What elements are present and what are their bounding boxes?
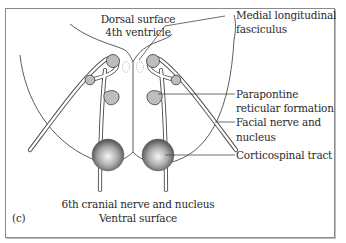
mlf-label-line1: Medial longitudinal — [236, 8, 336, 22]
panel-label: (c) — [12, 211, 25, 225]
dorsal-surface-label: Dorsal surface — [98, 12, 178, 26]
ventral-surface-label: Ventral surface — [58, 211, 218, 225]
facial-nerve-label-line1: Facial nerve and — [236, 115, 321, 129]
fourth-ventricle-label: 4th ventricle — [98, 25, 178, 39]
sixth-nerve-label: 6th cranial nerve and nucleus — [58, 197, 218, 211]
mlf-label-line2: fasciculus — [236, 22, 287, 36]
facial-nerve-label-line2: nucleus — [236, 130, 276, 144]
pprf-label-line2: reticular formation — [236, 101, 334, 115]
corticospinal-label: Corticospinal tract — [236, 148, 332, 162]
pprf-label-line1: Parapontine — [236, 87, 298, 101]
